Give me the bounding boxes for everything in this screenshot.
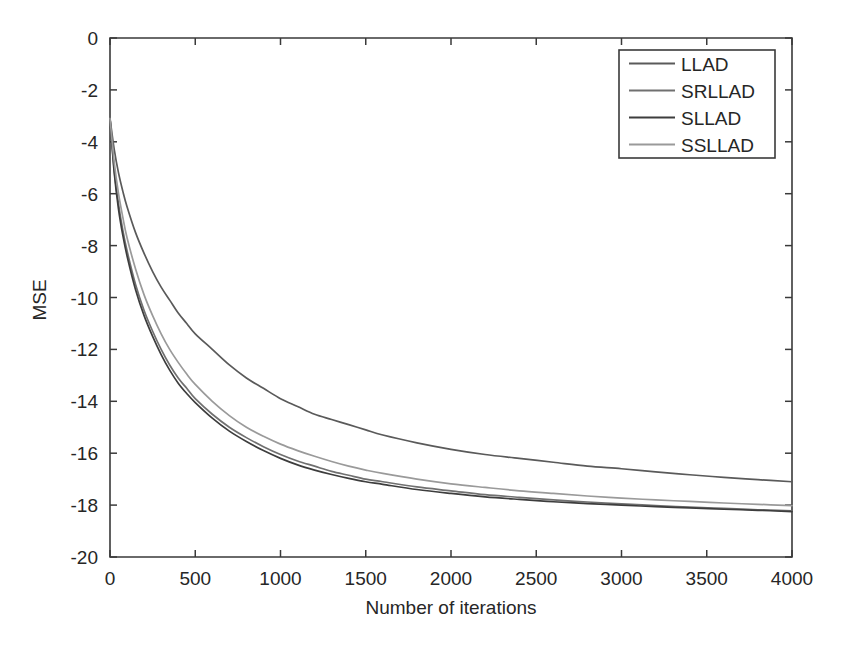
y-tick-label: -6 (81, 184, 98, 205)
series-line-srllad (110, 118, 792, 510)
legend-label-srllad: SRLLAD (681, 81, 755, 102)
y-tick-label: 0 (87, 28, 98, 49)
legend-label-ssllad: SSLLAD (681, 135, 754, 156)
y-tick-label: -2 (81, 80, 98, 101)
x-axis-tick-labels: 05001000150020002500300035004000 (105, 568, 813, 589)
mse-convergence-chart: 0-2-4-6-8-10-12-14-16-18-20 050010001500… (0, 0, 846, 653)
x-tick-label: 2000 (430, 568, 472, 589)
y-tick-label: -18 (71, 495, 98, 516)
figure-container: 0-2-4-6-8-10-12-14-16-18-20 050010001500… (0, 0, 846, 653)
legend-label-llad: LLAD (681, 54, 729, 75)
series-line-llad (110, 118, 792, 481)
y-tick-label: -4 (81, 132, 98, 153)
series-lines (110, 118, 792, 511)
y-tick-label: -14 (71, 391, 99, 412)
x-tick-label: 4000 (771, 568, 813, 589)
y-tick-label: -12 (71, 339, 98, 360)
x-tick-label: 2500 (515, 568, 557, 589)
y-tick-label: -8 (81, 236, 98, 257)
x-tick-label: 0 (105, 568, 116, 589)
y-axis-tick-labels: 0-2-4-6-8-10-12-14-16-18-20 (71, 28, 99, 568)
series-line-sllad (110, 118, 792, 511)
y-tick-label: -16 (71, 443, 98, 464)
legend-label-sllad: SLLAD (681, 108, 741, 129)
y-tick-label: -10 (71, 288, 98, 309)
y-axis-title: MSE (29, 279, 50, 320)
x-axis-title: Number of iterations (365, 597, 536, 618)
x-tick-label: 3500 (686, 568, 728, 589)
x-tick-label: 1500 (345, 568, 387, 589)
series-line-ssllad (110, 118, 792, 505)
y-tick-label: -20 (71, 547, 98, 568)
x-tick-label: 500 (179, 568, 211, 589)
x-tick-label: 3000 (600, 568, 642, 589)
chart-legend[interactable]: LLADSRLLADSLLADSSLLAD (619, 50, 775, 158)
x-tick-label: 1000 (259, 568, 301, 589)
